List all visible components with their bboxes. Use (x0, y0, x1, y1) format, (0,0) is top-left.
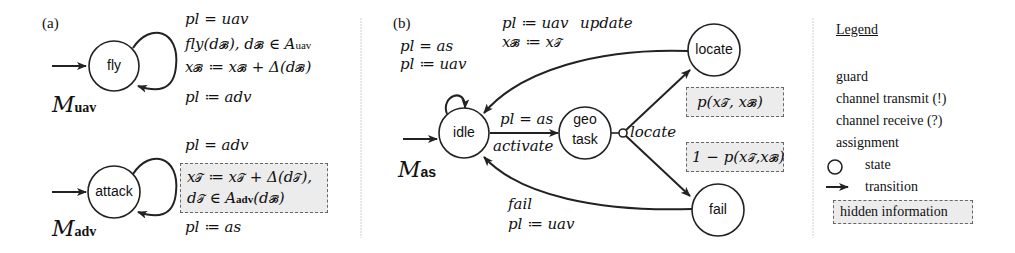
state-idle-label: idle (439, 124, 489, 140)
prob-fail-box: 1 − p(x𝒯,x𝓑) (686, 142, 784, 172)
state-fail-label: fail (692, 201, 744, 217)
uav-guard: pl = uav (185, 10, 249, 28)
state-geo-label-line1: geo (560, 111, 610, 127)
legend-item-assignment: assignment (836, 135, 899, 151)
locate-to-idle-update: x𝓑 ≔ x𝒯 (502, 33, 562, 51)
prob-locate-text: p(x𝒯, x𝓑) (697, 93, 763, 111)
prob-locate-box: p(x𝒯, x𝓑) (686, 87, 784, 117)
state-geo-label-line2: task (560, 131, 610, 147)
geo-branch-channel: locate (630, 123, 676, 141)
idle-to-geo-channel: activate (493, 137, 554, 155)
legend-state-circle-icon (828, 160, 842, 174)
locate-to-idle-channel: update (580, 14, 633, 32)
adv-hidden-line1: x𝒯 ≔ x𝒯 + Δ(d𝒯), (187, 168, 312, 186)
idle-to-geo-guard: pl = as (500, 110, 553, 128)
uav-channel-receive: fly(d𝓑), d𝓑 ∈ Auav (185, 35, 311, 53)
idle-loop-assignment: pl ≔ uav (400, 55, 467, 73)
legend-hidden-info-box: hidden information (833, 200, 973, 224)
adv-guard: pl = adv (185, 136, 249, 154)
legend-item-channel-receive: channel receive (?) (836, 113, 942, 129)
panel-b-tag: (b) (393, 15, 411, 32)
adv-hidden-info-box: x𝒯 ≔ x𝒯 + Δ(d𝒯), d𝒯 ∈ Aadv(d𝓑) (180, 163, 328, 213)
legend-item-hidden-information: hidden information (840, 204, 948, 220)
fail-to-idle-channel: fail (508, 195, 532, 213)
legend-item-channel-transmit: channel transmit (!) (836, 91, 946, 107)
locate-to-idle-assignment: pl ≔ uav (502, 14, 569, 32)
state-locate-label: locate (688, 41, 740, 57)
model-uav-label: Muav (52, 92, 96, 117)
adv-hidden-line2: d𝒯 ∈ Aadv(d𝓑) (187, 189, 285, 207)
uav-post-assignment: pl ≔ adv (185, 88, 251, 106)
fail-to-idle-assignment: pl ≔ uav (508, 215, 575, 233)
legend-title: Legend (836, 22, 878, 38)
adv-post-assignment: pl ≔ as (185, 218, 241, 236)
state-attack-label: attack (88, 183, 140, 199)
uav-assignment: x𝓑 ≔ x𝓑 + Δ(d𝓑) (185, 58, 311, 76)
model-adv-label: Madv (52, 216, 96, 241)
idle-loop-guard: pl = as (400, 37, 453, 55)
branch-node (619, 129, 627, 137)
state-fly-label: fly (89, 57, 139, 73)
legend-item-transition: transition (865, 179, 918, 195)
prob-fail-text: 1 − p(x𝒯,x𝓑) (692, 148, 785, 166)
model-as-label: Mas (398, 157, 436, 182)
panel-a-tag: (a) (42, 15, 59, 32)
legend-item-state: state (865, 157, 891, 173)
legend-item-guard: guard (836, 69, 868, 85)
